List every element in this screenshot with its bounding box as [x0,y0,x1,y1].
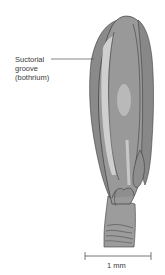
scale-bar-label: 1 mm [107,261,126,270]
label-line-2: groove [15,64,49,73]
label-line-1: Suctorial [15,55,49,64]
label-line-3: (bothrium) [15,73,49,82]
scolex-drawing [0,0,165,275]
scale-bar [85,252,151,260]
scolex-illustration: Suctorial groove (bothrium) 1 mm [0,0,165,275]
bothrium-label: Suctorial groove (bothrium) [15,55,49,82]
